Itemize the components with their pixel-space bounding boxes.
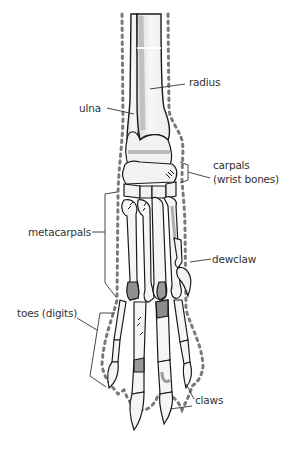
label-carpals: carpals xyxy=(213,159,250,171)
toe-bones xyxy=(108,300,192,430)
label-dewclaw: dewclaw xyxy=(212,253,256,265)
label-ulna: ulna xyxy=(79,102,101,114)
label-claws: claws xyxy=(195,394,223,406)
forearm-bones xyxy=(127,14,170,148)
label-metacarpals: metacarpals xyxy=(28,226,91,238)
carpal-bones xyxy=(123,132,177,198)
label-radius: radius xyxy=(189,76,220,88)
label-carpals-sub: (wrist bones) xyxy=(213,173,279,185)
label-toes: toes (digits) xyxy=(17,307,77,319)
metacarpal-bones xyxy=(122,197,181,302)
